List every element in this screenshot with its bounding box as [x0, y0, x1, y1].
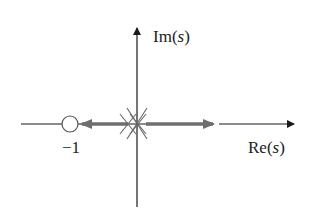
minus-one-text: −1 [62, 138, 80, 157]
paren-close: ) [279, 138, 285, 157]
im-text: Im [153, 27, 172, 46]
zero-value-label: −1 [62, 138, 80, 158]
zero-marker-icon [62, 116, 78, 132]
re-text: Re [248, 138, 267, 157]
imaginary-axis-label: Im(s) [153, 27, 190, 47]
paren-close: ) [184, 27, 190, 46]
real-axis-label: Re(s) [248, 138, 285, 158]
